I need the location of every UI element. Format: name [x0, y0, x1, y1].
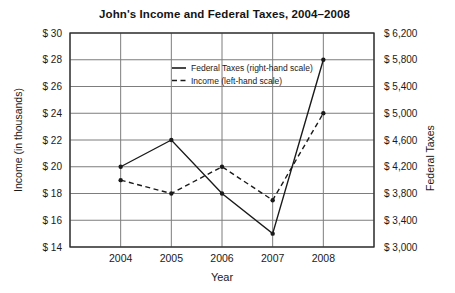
left-axis-ticks: $ 14$ 16$ 18$ 20$ 22$ 24$ 26$ 28$ 30 — [43, 28, 63, 253]
svg-text:Year: Year — [211, 271, 234, 283]
left-axis-title: Income (in thousands) — [12, 88, 24, 192]
svg-text:$ 16: $ 16 — [43, 215, 63, 226]
svg-text:$ 4,600: $ 4,600 — [384, 135, 418, 146]
svg-text:Federal Taxes: Federal Taxes — [424, 125, 436, 191]
svg-text:$ 18: $ 18 — [43, 188, 63, 199]
x-axis-ticks: 20042005200620072008 — [109, 252, 335, 264]
svg-text:$ 20: $ 20 — [43, 161, 63, 172]
svg-text:$ 26: $ 26 — [43, 81, 63, 92]
svg-text:$ 28: $ 28 — [43, 54, 63, 65]
right-axis-title: Federal Taxes — [424, 125, 436, 191]
svg-text:$ 3,000: $ 3,000 — [384, 242, 418, 253]
svg-text:2004: 2004 — [109, 252, 133, 264]
svg-text:$ 24: $ 24 — [43, 108, 63, 119]
svg-text:Income (left-hand scale): Income (left-hand scale) — [191, 76, 282, 86]
svg-text:$ 14: $ 14 — [43, 242, 63, 253]
svg-text:$ 6,200: $ 6,200 — [384, 28, 418, 39]
svg-text:$ 4,200: $ 4,200 — [384, 161, 418, 172]
chart-canvas: $ 14$ 16$ 18$ 20$ 22$ 24$ 26$ 28$ 30$ 3,… — [0, 0, 455, 293]
svg-text:2005: 2005 — [160, 252, 184, 264]
svg-text:2007: 2007 — [261, 252, 285, 264]
svg-text:$ 30: $ 30 — [43, 28, 63, 39]
income-taxes-chart: John's Income and Federal Taxes, 2004–20… — [0, 0, 455, 293]
svg-text:$ 5,000: $ 5,000 — [384, 108, 418, 119]
svg-text:$ 3,800: $ 3,800 — [384, 188, 418, 199]
right-axis-ticks: $ 3,000$ 3,400$ 3,800$ 4,200$ 4,600$ 5,0… — [384, 28, 418, 253]
svg-text:$ 3,400: $ 3,400 — [384, 215, 418, 226]
x-axis-title: Year — [211, 271, 234, 283]
svg-text:2008: 2008 — [312, 252, 336, 264]
svg-text:2006: 2006 — [210, 252, 234, 264]
svg-text:$ 5,400: $ 5,400 — [384, 81, 418, 92]
svg-text:Federal Taxes (right-hand scal: Federal Taxes (right-hand scale) — [191, 63, 313, 73]
svg-text:Income (in thousands): Income (in thousands) — [12, 88, 24, 192]
svg-text:$ 5,800: $ 5,800 — [384, 54, 418, 65]
legend: Federal Taxes (right-hand scale)Income (… — [172, 63, 313, 86]
svg-text:$ 22: $ 22 — [43, 135, 63, 146]
